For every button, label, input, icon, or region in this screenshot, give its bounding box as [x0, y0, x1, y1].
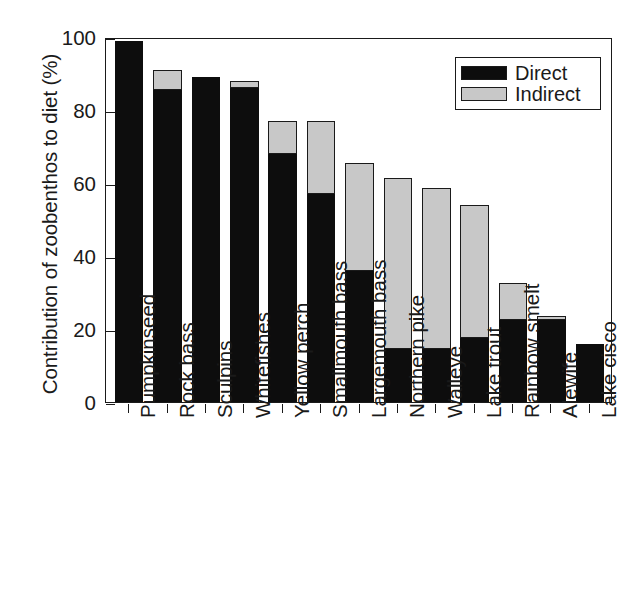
- x-label-smallmouth-bass: Smallmouth bass: [328, 261, 352, 418]
- x-label-rock-bass: Rock bass: [175, 322, 199, 418]
- chart-legend: Direct Indirect: [455, 57, 601, 110]
- x-label-walleye: Walleye: [443, 346, 467, 418]
- y-tick-label: 0: [26, 391, 96, 415]
- x-label-lake-trout: Lake trout: [482, 327, 506, 418]
- x-label-alewife: Alewife: [558, 352, 582, 418]
- x-tick-mark: [512, 404, 513, 413]
- x-tick-mark: [282, 404, 283, 413]
- x-label-lake-cisco: Lake cisco: [597, 321, 621, 418]
- bar-segment-indirect: [268, 121, 297, 154]
- x-label-rainbow-smelt: Rainbow smelt: [520, 284, 544, 418]
- black-swatch-icon: [461, 66, 507, 80]
- y-tick-label: 40: [26, 245, 96, 269]
- legend-label-indirect: Indirect: [515, 84, 581, 104]
- bar-segment-indirect: [153, 70, 182, 90]
- x-label-yellow-perch: Yellow perch: [290, 303, 314, 418]
- x-tick-mark: [205, 404, 206, 413]
- bar-segment-indirect: [230, 81, 259, 88]
- y-tick-label: 20: [26, 318, 96, 342]
- x-label-largemouth-bass: Largemouth bass: [367, 260, 391, 418]
- x-label-whitefishes: Whitefishes: [251, 312, 275, 418]
- x-tick-mark: [320, 404, 321, 413]
- legend-label-direct: Direct: [515, 63, 567, 83]
- x-tick-mark: [474, 404, 475, 413]
- legend-item-indirect: Indirect: [461, 83, 595, 104]
- gray-swatch-icon: [461, 87, 507, 101]
- bar-segment-indirect: [460, 205, 489, 338]
- stacked-bar-chart-figure: Contribution of zoobenthos to diet (%) 0…: [0, 0, 644, 598]
- x-tick-mark: [359, 404, 360, 413]
- x-tick-mark: [243, 404, 244, 413]
- y-axis-title: Contribution of zoobenthos to diet (%): [38, 14, 62, 434]
- x-label-pumpkinseed: Pumpkinseed: [136, 294, 160, 418]
- x-tick-mark: [435, 404, 436, 413]
- x-tick-mark: [550, 404, 551, 413]
- y-tick-label: 100: [26, 26, 96, 50]
- y-tick-label: 60: [26, 172, 96, 196]
- bar-segment-indirect: [345, 163, 374, 271]
- x-label-sculpins: Sculpins: [213, 341, 237, 419]
- x-tick-mark: [167, 404, 168, 413]
- x-tick-mark: [397, 404, 398, 413]
- y-tick-mark: [106, 404, 115, 405]
- x-tick-mark: [589, 404, 590, 413]
- y-tick-label: 80: [26, 99, 96, 123]
- legend-item-direct: Direct: [461, 62, 595, 83]
- x-label-northern-pike: Northern pike: [405, 295, 429, 418]
- x-tick-mark: [128, 404, 129, 413]
- bar-segment-indirect: [307, 121, 336, 194]
